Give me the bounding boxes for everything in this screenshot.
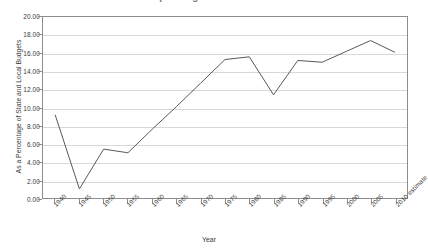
series-polyline xyxy=(55,41,395,189)
x-axis-title: Year xyxy=(0,236,418,243)
y-axis-tick-label: 0.00 xyxy=(0,196,40,203)
y-axis-title: As a Percentage of State and Local Budge… xyxy=(15,17,22,197)
chart-title: Local Government Spending xyxy=(62,0,362,5)
data-series-line xyxy=(43,17,407,198)
plot-area xyxy=(42,16,408,199)
